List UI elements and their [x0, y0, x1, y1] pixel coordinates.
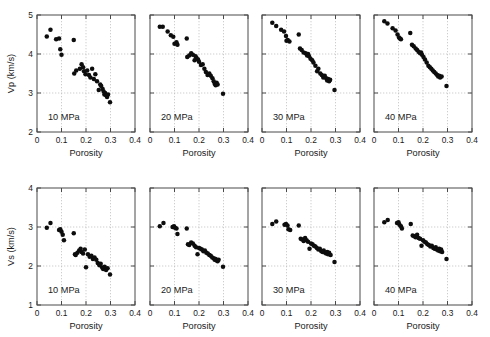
x-axis-title: Porosity: [69, 148, 103, 158]
data-point: [90, 67, 95, 72]
x-tick-label: 0.3: [218, 135, 230, 145]
x-axis-title: Porosity: [406, 148, 440, 158]
x-axis-title: Porosity: [294, 321, 328, 331]
data-point: [108, 272, 113, 277]
x-tick-label: 0: [148, 135, 153, 145]
data-point: [409, 222, 414, 227]
data-point: [45, 226, 50, 231]
data-point: [106, 92, 111, 97]
x-tick-label: 0.1: [56, 308, 68, 318]
x-axis-title: Porosity: [406, 321, 440, 331]
data-point: [160, 24, 165, 29]
data-point: [216, 258, 221, 263]
data-point: [328, 253, 333, 258]
x-tick-label: 0.2: [193, 135, 205, 145]
data-point: [62, 238, 66, 243]
x-tick-label: 0.2: [80, 308, 92, 318]
data-point: [158, 224, 163, 229]
data-point: [282, 29, 287, 33]
data-point: [284, 34, 289, 39]
x-tick-label: 0: [35, 308, 40, 318]
pressure-annotation: 40 MPa: [385, 285, 418, 295]
data-point: [93, 72, 98, 77]
data-point: [98, 261, 103, 266]
x-tick-label: 0.4: [466, 308, 478, 318]
y-axis-title: Vs (km/s): [6, 227, 16, 266]
x-tick-label: 0.2: [417, 308, 429, 318]
pressure-annotation: 30 MPa: [273, 285, 306, 295]
plot-area: 00.10.20.30.4Porosity40 MPa: [341, 3, 484, 168]
data-point: [297, 32, 302, 37]
y-axis-title: Vp (km/s): [6, 54, 16, 93]
x-tick-label: 0: [260, 135, 265, 145]
data-point: [215, 82, 220, 87]
data-point: [221, 92, 226, 97]
y-tick-label: 4: [28, 49, 33, 59]
data-point: [297, 223, 302, 228]
data-point: [419, 243, 424, 248]
x-tick-label: 0: [35, 135, 40, 145]
data-point: [316, 67, 321, 72]
y-tick-label: 3: [28, 88, 33, 98]
data-point: [174, 226, 179, 231]
x-tick-label: 0: [260, 308, 265, 318]
x-tick-label: 0.2: [305, 135, 317, 145]
x-tick-label: 0.1: [281, 308, 293, 318]
y-tick-label: 2: [28, 127, 33, 137]
data-point: [274, 24, 279, 29]
x-tick-label: 0.2: [417, 135, 429, 145]
x-axis-title: Porosity: [182, 321, 216, 331]
data-point: [45, 34, 50, 39]
y-tick-label: 5: [28, 10, 33, 20]
x-tick-label: 0.3: [330, 135, 342, 145]
panel-vs-40mpa: 00.10.20.30.4Porosity40 MPa: [341, 176, 484, 337]
data-point: [58, 47, 63, 52]
y-tick-label: 2: [28, 261, 33, 271]
x-tick-label: 0.1: [56, 135, 68, 145]
data-point: [440, 250, 445, 255]
x-tick-label: 0.3: [442, 308, 454, 318]
data-point: [221, 265, 226, 270]
x-tick-label: 0.3: [105, 308, 117, 318]
data-point: [81, 65, 86, 70]
data-point: [444, 257, 449, 262]
data-point: [307, 247, 312, 252]
data-point: [83, 247, 88, 252]
data-point: [332, 88, 337, 93]
data-point: [328, 77, 333, 82]
data-point: [287, 39, 292, 44]
x-tick-label: 0.2: [193, 308, 205, 318]
x-tick-label: 0.2: [305, 308, 317, 318]
x-tick-label: 0: [148, 308, 153, 318]
data-point: [60, 233, 65, 238]
data-point: [393, 28, 398, 32]
x-tick-label: 0.3: [218, 308, 230, 318]
x-tick-label: 0.1: [281, 135, 293, 145]
data-point: [108, 100, 113, 105]
data-point: [175, 232, 180, 237]
data-point: [81, 251, 86, 256]
data-point: [332, 260, 337, 265]
x-axis-title: Porosity: [294, 148, 328, 158]
x-tick-label: 0.1: [393, 135, 405, 145]
data-point: [385, 21, 390, 26]
data-point: [385, 218, 390, 223]
data-point: [399, 37, 404, 42]
pressure-annotation: 10 MPa: [48, 285, 81, 295]
data-point: [171, 35, 176, 40]
data-point: [72, 231, 77, 236]
x-axis-title: Porosity: [69, 321, 103, 331]
data-point: [439, 74, 444, 79]
x-tick-label: 0.1: [393, 308, 405, 318]
data-point: [59, 53, 64, 58]
data-point: [48, 28, 53, 33]
data-point: [185, 226, 190, 231]
x-tick-label: 0.3: [330, 308, 342, 318]
y-tick-label: 3: [28, 222, 33, 232]
x-tick-label: 0: [372, 135, 377, 145]
figure-root: 00.10.20.30.42345PorosityVp (km/s)10 MPa…: [0, 0, 490, 337]
pressure-annotation: 10 MPa: [48, 112, 81, 122]
data-point: [185, 36, 190, 41]
pressure-annotation: 20 MPa: [161, 112, 194, 122]
pressure-annotation: 20 MPa: [161, 285, 194, 295]
